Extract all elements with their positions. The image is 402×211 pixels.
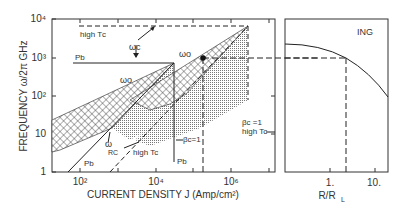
label-pb-right: Pb (177, 157, 187, 166)
y-axis-title: FREQUENCY ω/2π GHz (18, 40, 29, 151)
label-omega-o-htc: ωo (179, 49, 191, 59)
operating-point (200, 55, 206, 61)
y-tick-100: 10² (32, 90, 47, 101)
label-omega-rc: ω (105, 139, 112, 149)
right-x-tick-1: 1. (326, 177, 334, 188)
right-plot-frame (285, 19, 388, 172)
y-tick-10: 10 (35, 128, 47, 139)
x-tick-100: 10² (73, 176, 88, 187)
y-tick-1000: 10³ (32, 52, 47, 63)
right-x-tick-10: 10. (367, 177, 381, 188)
label-rc-sub: RC (108, 149, 118, 156)
right-x-axis-sub: L (341, 196, 345, 203)
label-beta-htc: βc =1 (242, 118, 262, 127)
y-tick-10000: 10⁴ (31, 13, 46, 24)
label-beta-htc-sub: high Tc (242, 127, 267, 136)
figure: 10⁴ 10³ 10² 10 1 10² 10⁴ 10⁶ CURRENT DEN… (0, 0, 402, 211)
omega-c-arrow-up (138, 28, 153, 40)
label-high-tc-mid: high Tc (133, 148, 158, 157)
arrow-head (133, 53, 139, 58)
label-pb-top: Pb (75, 53, 85, 62)
x-axis-title: CURRENT DENSITY J (Amp/cm²) (87, 189, 239, 200)
label-pb-left: Pb (84, 159, 94, 168)
x-tick-10000: 10⁴ (148, 176, 163, 187)
right-x-axis-title: R/R (318, 190, 335, 201)
label-beta-pb: βc=1 (183, 135, 201, 144)
right-curve (285, 44, 388, 97)
label-omega-c: ωc (129, 42, 141, 52)
label-ing: ING (357, 27, 373, 37)
x-tick-1000000: 10⁶ (223, 176, 238, 187)
label-high-tc-top: high Tᴄ (80, 30, 106, 39)
y-tick-1: 1 (40, 166, 46, 177)
label-omega-o-pb: ωo (120, 75, 132, 85)
